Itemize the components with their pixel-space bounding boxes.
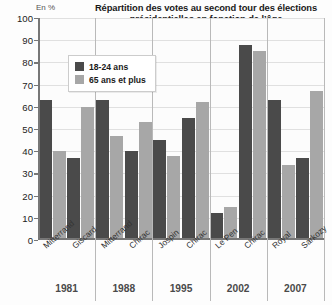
bar xyxy=(296,158,309,240)
group-separator xyxy=(267,18,268,301)
legend-item-old: 65 ans et plus xyxy=(75,73,146,86)
bar xyxy=(268,100,281,240)
y-tick-mark xyxy=(34,107,38,108)
y-tick-label: 10 xyxy=(22,212,33,223)
y-tick-label: 40 xyxy=(22,146,33,157)
y-tick-label: 90 xyxy=(22,35,33,46)
legend-label-young: 18-24 ans xyxy=(89,62,128,72)
y-tick-label: 80 xyxy=(22,57,33,68)
bar xyxy=(282,165,295,240)
y-tick-mark xyxy=(34,218,38,219)
bar xyxy=(196,102,209,240)
gridline xyxy=(38,40,324,41)
year-label: 1981 xyxy=(41,283,93,294)
year-label: 2007 xyxy=(269,283,321,294)
y-tick-label: 0 xyxy=(28,235,33,246)
y-tick-mark xyxy=(34,196,38,197)
y-tick-mark xyxy=(34,173,38,174)
bar xyxy=(139,122,152,240)
bar xyxy=(310,91,323,240)
bar xyxy=(153,140,166,240)
y-tick-mark xyxy=(34,85,38,86)
plot-area: 0102030405060708090100 xyxy=(38,18,324,240)
bar xyxy=(96,100,109,240)
chart-title-line-1: Répartition des votes au second tour des… xyxy=(84,2,328,13)
gridline xyxy=(38,18,324,19)
y-tick-label: 60 xyxy=(22,101,33,112)
y-tick-label: 30 xyxy=(22,168,33,179)
bar xyxy=(239,45,252,240)
legend-swatch-icon-old xyxy=(75,75,84,84)
y-tick-label: 50 xyxy=(22,124,33,135)
bar xyxy=(182,118,195,240)
group-separator xyxy=(324,18,325,301)
y-axis-line xyxy=(38,18,40,240)
legend-item-young: 18-24 ans xyxy=(75,60,146,73)
bar xyxy=(253,51,266,240)
chart-legend: 18-24 ans 65 ans et plus xyxy=(68,55,156,92)
y-axis-unit-label: En % xyxy=(36,3,55,12)
y-tick-mark xyxy=(34,18,38,19)
year-label: 1995 xyxy=(155,283,207,294)
y-tick-mark xyxy=(34,151,38,152)
group-separator xyxy=(210,18,211,301)
y-tick-label: 20 xyxy=(22,190,33,201)
y-tick-label: 100 xyxy=(17,13,33,24)
bar xyxy=(39,100,52,240)
y-tick-mark xyxy=(34,129,38,130)
y-tick-mark xyxy=(34,62,38,63)
year-label: 2002 xyxy=(212,283,264,294)
chart-container: En % Répartition des votes au second tou… xyxy=(0,0,332,305)
year-label: 1988 xyxy=(98,283,150,294)
y-tick-mark xyxy=(34,240,38,241)
legend-swatch-icon-young xyxy=(75,62,84,71)
bar xyxy=(81,107,94,240)
legend-label-old: 65 ans et plus xyxy=(89,75,146,85)
y-tick-mark xyxy=(34,40,38,41)
y-tick-label: 70 xyxy=(22,79,33,90)
